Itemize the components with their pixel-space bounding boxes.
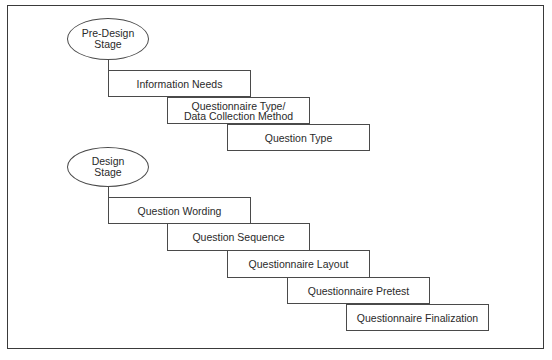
step-label: Information Needs: [137, 79, 223, 89]
stage-pre-design: Pre-Design Stage: [67, 18, 149, 60]
step-label: Question Sequence: [192, 232, 284, 242]
step-question-sequence: Question Sequence: [167, 223, 310, 251]
step-questionnaire-layout: Questionnaire Layout: [227, 250, 370, 278]
step-information-needs: Information Needs: [108, 70, 251, 97]
stage-label: Design Stage: [92, 156, 125, 178]
step-label: Question Wording: [138, 206, 222, 216]
step-questionnaire-type: Questionnaire Type/ Data Collection Meth…: [167, 97, 310, 124]
step-question-wording: Question Wording: [108, 197, 251, 224]
step-label: Question Type: [265, 133, 333, 143]
step-question-type: Question Type: [227, 124, 370, 151]
stage-design: Design Stage: [67, 147, 149, 187]
step-label: Questionnaire Layout: [249, 259, 349, 269]
step-questionnaire-finalization: Questionnaire Finalization: [346, 304, 489, 331]
step-label: Questionnaire Finalization: [357, 313, 478, 323]
step-questionnaire-pretest: Questionnaire Pretest: [287, 277, 430, 304]
step-label: Questionnaire Pretest: [308, 286, 410, 296]
step-label: Questionnaire Type/ Data Collection Meth…: [184, 101, 293, 121]
stage-label: Pre-Design Stage: [82, 28, 135, 50]
